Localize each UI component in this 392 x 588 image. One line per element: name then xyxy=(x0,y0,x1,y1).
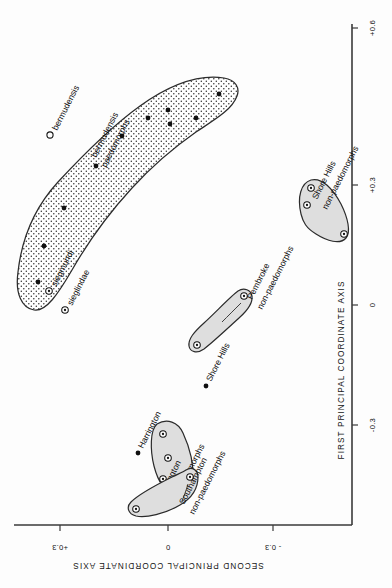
data-point xyxy=(166,108,171,113)
y-tick-label: +0.3 xyxy=(52,543,68,552)
ringed-dot-core xyxy=(196,344,198,346)
data-point xyxy=(36,280,41,285)
x-axis-title: FIRST PRINCIPAL COORDINATE AXIS xyxy=(337,281,346,460)
ringed-dot-core xyxy=(162,433,164,435)
ringed-dot-core xyxy=(135,508,137,510)
data-point xyxy=(94,164,99,169)
y-tick-label: 0 xyxy=(166,543,171,552)
data-point xyxy=(42,244,47,249)
y-tick-label: - 0.3 xyxy=(265,543,282,552)
data-point xyxy=(194,116,199,121)
filled-dot-marker xyxy=(204,384,209,389)
filled-dot-marker xyxy=(136,451,141,456)
ringed-dot-core xyxy=(167,457,169,459)
ringed-dot-core xyxy=(343,233,345,235)
x-tick-label: +0.3 xyxy=(368,177,377,193)
x-tick-label: -0.3 xyxy=(368,418,377,432)
data-point xyxy=(168,122,173,127)
ringed-dot-core xyxy=(306,204,308,206)
pcoa-ordination-plot: +0.6 +0.3 0 -0.3 FIRST PRINCIPAL COORDIN… xyxy=(0,0,392,588)
data-point xyxy=(62,206,67,211)
ringed-dot-core xyxy=(64,309,66,311)
data-point xyxy=(217,92,222,97)
ringed-dot-core xyxy=(48,290,50,292)
data-point xyxy=(146,116,151,121)
ringed-dot-core xyxy=(310,187,312,189)
x-tick-label: 0 xyxy=(368,303,377,308)
y-axis-title: SECOND PRINCIPAL COORDINATE AXIS xyxy=(72,561,264,570)
x-tick-label: +0.6 xyxy=(368,20,377,36)
chart-figure: +0.6 +0.3 0 -0.3 FIRST PRINCIPAL COORDIN… xyxy=(0,0,392,588)
